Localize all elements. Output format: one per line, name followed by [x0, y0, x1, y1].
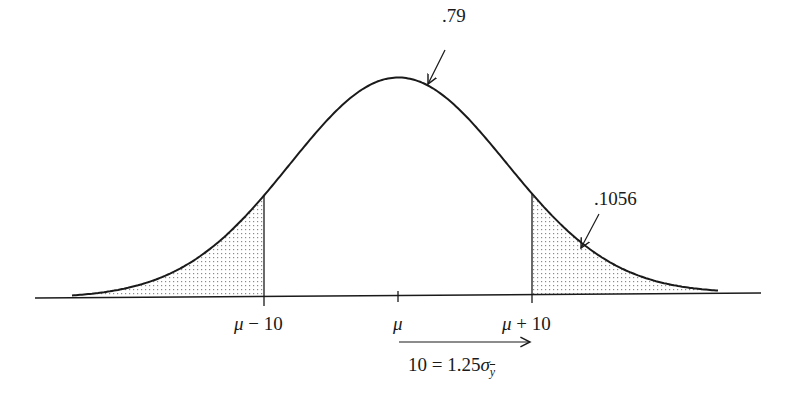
right-bound-label: μ + 10	[502, 314, 551, 333]
sigma-symbol: σ	[480, 354, 489, 375]
minus-ten: − 10	[244, 313, 283, 334]
plus-ten: + 10	[512, 313, 551, 334]
right-tail-arrow-icon	[581, 214, 599, 248]
mu-symbol: μ	[502, 313, 512, 334]
y-bar-subscript: y	[490, 365, 495, 379]
left-tail-shaded-region	[72, 196, 264, 298]
standard-error-caption: 10 = 1.25σy	[408, 355, 495, 374]
normal-curve-diagram	[0, 0, 788, 403]
bell-curve	[72, 78, 718, 296]
mu-symbol: μ	[234, 313, 244, 334]
right-tail-area-label: .1056	[594, 189, 637, 208]
center-area-label: .79	[442, 6, 466, 25]
mean-label: μ	[393, 314, 403, 333]
center-area-arrow-icon	[428, 50, 445, 84]
caption-prefix: 10 = 1.25	[408, 354, 480, 375]
left-bound-label: μ − 10	[234, 314, 283, 333]
